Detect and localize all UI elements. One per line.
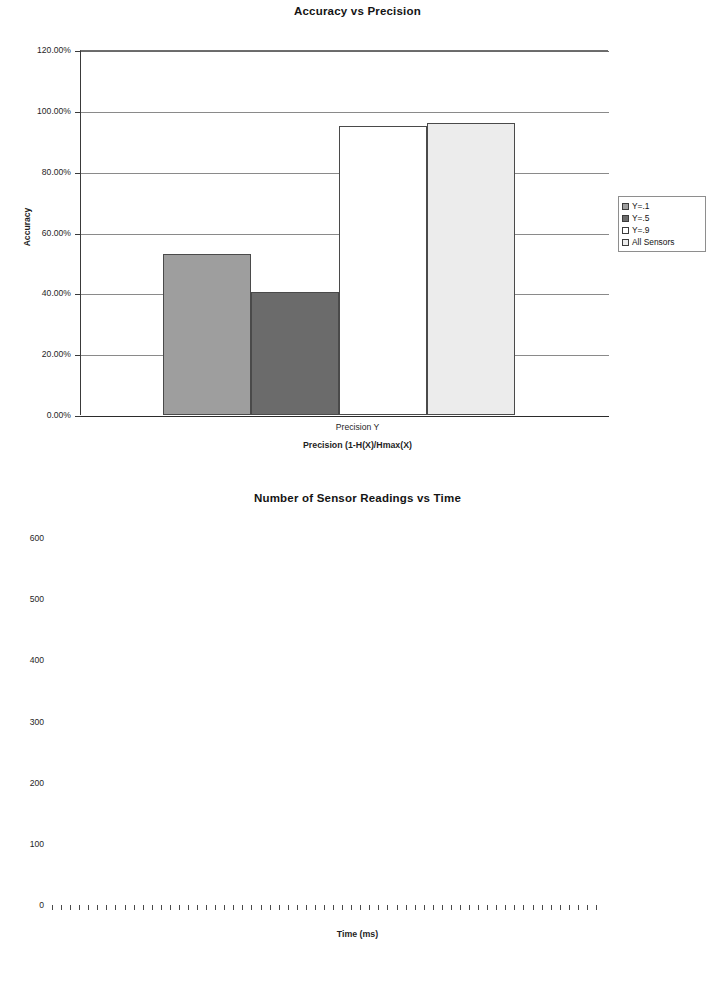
- y-axis-tick-label: 100: [30, 839, 44, 849]
- legend-item-y9[interactable]: Y=.9: [622, 224, 701, 236]
- plot-area-accuracy: [80, 50, 608, 415]
- x-axis-tick-band: [52, 905, 596, 910]
- y-axis-tick: [75, 173, 81, 174]
- bar-allsensors: [427, 123, 515, 415]
- y-axis-tick-label: 120.00%: [37, 45, 71, 55]
- accuracy-vs-precision-chart: Accuracy vs Precision Accuracy Precision…: [0, 0, 715, 470]
- bar-y5: [251, 292, 339, 415]
- y-axis-tick-label: 0.00%: [47, 410, 71, 420]
- legend-swatch-icon: [622, 215, 629, 222]
- y-axis-tick-label: 200: [30, 778, 44, 788]
- y-axis-tick: [75, 112, 81, 113]
- gridline: [81, 51, 609, 52]
- y-axis-tick-label: 400: [30, 655, 44, 665]
- category-axis-caption: Precision Y: [0, 422, 715, 432]
- chart-title-readings: Number of Sensor Readings vs Time: [0, 492, 715, 504]
- gridline: [81, 112, 609, 113]
- readings-vs-time-chart: Number of Sensor Readings vs Time Time (…: [0, 470, 715, 991]
- legend-item-y5[interactable]: Y=.5: [622, 212, 701, 224]
- bar-y1: [163, 254, 251, 415]
- legend-accuracy: Y=.1Y=.5Y=.9All Sensors: [618, 196, 706, 252]
- y-axis-tick-label: 60.00%: [42, 228, 71, 238]
- y-axis-tick-label: 0: [39, 900, 44, 910]
- legend-item-y1[interactable]: Y=.1: [622, 200, 701, 212]
- y-axis-tick: [75, 234, 81, 235]
- y-axis-tick: [75, 355, 81, 356]
- legend-item-allsensors[interactable]: All Sensors: [622, 236, 701, 248]
- legend-swatch-icon: [622, 239, 629, 246]
- y-axis-tick-label: 300: [30, 717, 44, 727]
- legend-label: Y=.5: [632, 213, 649, 223]
- y-axis-tick-label: 20.00%: [42, 349, 71, 359]
- x-axis-title-readings: Time (ms): [0, 929, 715, 939]
- y-axis-tick: [75, 51, 81, 52]
- legend-swatch-icon: [622, 203, 629, 210]
- chart-title-accuracy: Accuracy vs Precision: [0, 5, 715, 17]
- legend-label: Y=.9: [632, 225, 649, 235]
- y-axis-tick-label: 500: [30, 594, 44, 604]
- y-axis-tick-label: 40.00%: [42, 288, 71, 298]
- x-axis-title-accuracy: Precision (1-H(X)/Hmax(X): [0, 440, 715, 450]
- legend-swatch-icon: [622, 227, 629, 234]
- legend-label: Y=.1: [632, 201, 649, 211]
- y-axis-tick-label: 100.00%: [37, 106, 71, 116]
- y-axis-tick-label: 80.00%: [42, 167, 71, 177]
- y-axis-tick: [75, 416, 81, 417]
- x-axis-line: [81, 416, 609, 417]
- y-axis-tick-label: 600: [30, 533, 44, 543]
- y-axis-label-accuracy: Accuracy: [22, 207, 32, 246]
- legend-label: All Sensors: [632, 237, 674, 247]
- bar-y9: [339, 126, 427, 415]
- y-axis-tick: [75, 294, 81, 295]
